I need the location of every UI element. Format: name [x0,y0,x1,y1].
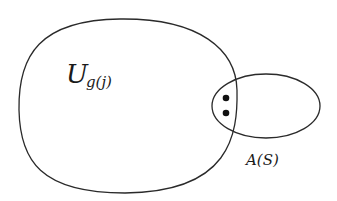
set-a-boundary [212,74,320,138]
intersection-point [223,95,230,102]
intersection-point [223,110,230,117]
venn-diagram: U g(j) A(S) [0,0,337,201]
set-u-subscript: g(j) [86,73,112,91]
set-a-label: A(S) [244,151,279,169]
set-u-boundary [19,19,237,193]
